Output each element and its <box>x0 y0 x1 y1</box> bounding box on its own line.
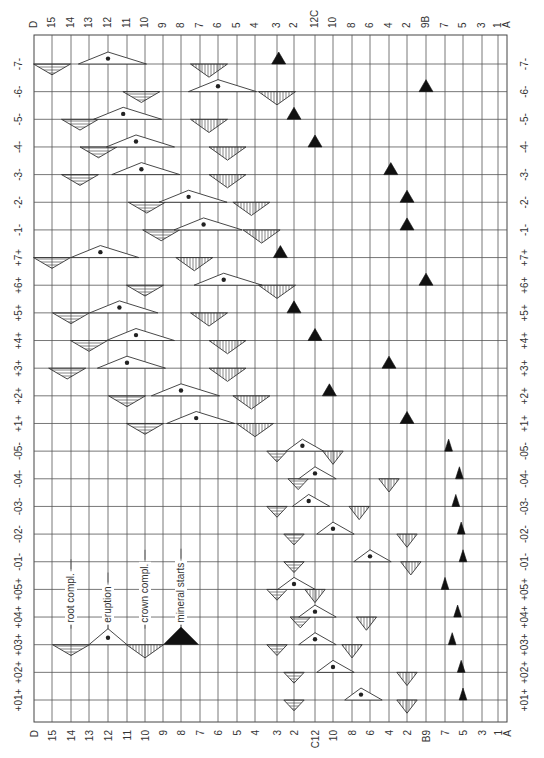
column-label-top: 11 <box>121 17 132 28</box>
row-label-right: -03- <box>519 498 530 516</box>
row-label-right: +5+ <box>519 304 530 321</box>
row-label-left: +7+ <box>13 249 24 266</box>
eruption-marker <box>345 688 382 700</box>
crown-complete-marker <box>259 285 296 298</box>
eruption-marker <box>278 577 315 589</box>
eruption-marker <box>174 218 242 230</box>
mineral-start-marker <box>441 577 449 589</box>
column-label-top: 7 <box>439 22 450 28</box>
eruption-dot <box>98 250 102 254</box>
column-label-bottom: 14 <box>66 730 77 742</box>
eruption-marker <box>317 660 354 672</box>
legend-label: root compl. <box>65 573 76 622</box>
column-label-bottom: 15 <box>47 730 58 742</box>
eruption-dot <box>134 139 138 143</box>
crown-complete-marker <box>401 562 421 575</box>
root-complete-marker <box>109 396 146 407</box>
root-complete-marker <box>143 230 180 241</box>
eruption-marker <box>299 467 336 479</box>
eruption-marker <box>90 301 158 313</box>
root-complete-marker <box>288 479 308 490</box>
mineral-start-marker <box>273 246 287 258</box>
eruption-marker <box>106 135 174 147</box>
mineral-start-marker <box>457 522 465 534</box>
row-label-left: +05+ <box>13 578 24 601</box>
row-label-right: -5- <box>519 113 530 125</box>
eruption-marker <box>194 273 262 285</box>
mineral-start-marker <box>322 384 336 396</box>
mineral-start-marker <box>382 356 396 368</box>
crown-complete-marker <box>233 202 270 215</box>
mineral-start-marker <box>400 218 414 230</box>
crown-complete-marker <box>209 368 246 381</box>
root-complete-marker <box>71 341 108 352</box>
row-label-left: -6- <box>13 86 24 98</box>
crown-complete-marker <box>397 534 417 547</box>
eruption-dot <box>313 637 317 641</box>
column-label-top: 12C <box>309 10 320 28</box>
eruption-marker <box>151 384 219 396</box>
root-complete-marker <box>53 313 90 324</box>
chart-canvas: D1514131211109876543212C1086429B7531A D1… <box>0 0 544 758</box>
row-label-right: +4+ <box>519 332 530 349</box>
eruption-dot <box>194 416 198 420</box>
column-label-bottom: 2 <box>402 730 413 736</box>
eruption-dot <box>368 554 372 558</box>
crown-complete-marker <box>191 313 228 326</box>
column-label-bottom: 11 <box>122 730 133 741</box>
root-complete-marker <box>127 423 164 434</box>
mineral-start-marker <box>384 163 398 175</box>
crown-complete-marker <box>209 341 246 354</box>
row-label-left: -03- <box>13 498 24 516</box>
crown-complete-marker <box>323 451 343 464</box>
eruption-dot <box>300 444 304 448</box>
root-complete-marker <box>34 64 71 75</box>
row-label-left: -2- <box>13 196 24 208</box>
eruption-dot <box>139 167 143 171</box>
crown-complete-marker <box>305 589 325 602</box>
row-label-right: -1- <box>519 224 530 236</box>
column-label-top: 10 <box>327 16 338 28</box>
column-label-top: 8 <box>175 22 186 28</box>
mineral-start-marker <box>308 135 322 147</box>
crown-complete-marker <box>356 617 376 630</box>
root-complete-marker <box>284 700 304 711</box>
root-complete-marker <box>62 175 99 186</box>
root-complete-marker <box>62 119 99 130</box>
crown-complete-marker <box>209 147 246 160</box>
column-label-top: 6 <box>364 22 375 28</box>
column-label-bottom: 8 <box>176 730 187 736</box>
column-label-top: 7 <box>194 22 205 28</box>
column-label-top: 9B <box>420 15 431 28</box>
row-label-left: -4- <box>13 141 24 153</box>
row-label-left: +2+ <box>13 387 24 404</box>
column-label-bottom: 9 <box>158 730 169 736</box>
column-label-bottom: 6 <box>365 730 376 736</box>
eruption-dot <box>125 361 129 365</box>
row-label-left: -5- <box>13 113 24 125</box>
eruption-dot <box>216 84 220 88</box>
column-label-bottom: 10 <box>140 730 151 742</box>
column-label-bottom: 7 <box>195 730 206 736</box>
eruption-dot <box>359 692 363 696</box>
row-label-left: +5+ <box>13 304 24 321</box>
column-label-top: 5 <box>231 22 242 28</box>
mineral-start-marker <box>400 190 414 202</box>
crown-complete-marker <box>397 700 417 713</box>
column-label-top: 4 <box>249 22 260 28</box>
column-label-top: 2 <box>401 22 412 28</box>
row-label-right: -05- <box>519 442 530 460</box>
row-label-right: +3+ <box>519 359 530 376</box>
legend-mineral-marker <box>163 627 199 645</box>
eruption-marker <box>106 329 174 341</box>
column-label-top: 3 <box>271 22 282 28</box>
row-label-right: -2- <box>519 196 530 208</box>
mineral-start-marker <box>287 301 301 313</box>
column-label-bottom: 5 <box>458 730 469 736</box>
eruption-dot <box>117 305 121 309</box>
row-label-right: -6- <box>519 86 530 98</box>
row-label-left: -1- <box>13 224 24 236</box>
row-label-left: +1+ <box>13 415 24 432</box>
eruption-marker <box>354 550 391 562</box>
row-label-right: +03+ <box>519 633 530 656</box>
